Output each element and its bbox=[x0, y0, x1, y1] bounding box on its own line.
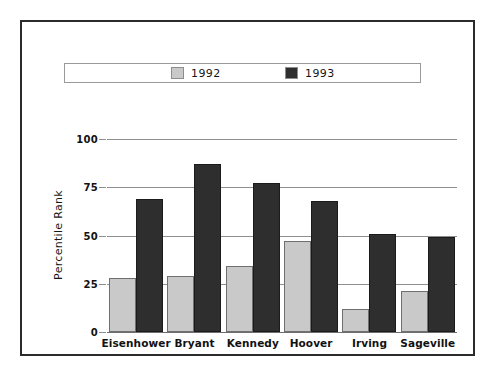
y-tick-mark-50 bbox=[99, 236, 106, 237]
y-tick-mark-100 bbox=[99, 139, 106, 140]
bar-group-bryant: Bryant bbox=[165, 139, 223, 332]
legend-item-1993: 1993 bbox=[285, 67, 335, 79]
bar-irving-1993 bbox=[369, 234, 396, 332]
bar-hoover-1992 bbox=[284, 241, 311, 332]
chart-legend: 1992 1993 bbox=[64, 63, 421, 83]
x-tick-label-sageville: Sageville bbox=[400, 337, 455, 349]
bar-bryant-1992 bbox=[167, 276, 194, 332]
y-tick-mark-0 bbox=[99, 332, 106, 333]
bar-group-hoover: Hoover bbox=[282, 139, 340, 332]
bar-kennedy-1992 bbox=[226, 266, 253, 332]
y-tick-mark-75 bbox=[99, 187, 106, 188]
legend-item-1992: 1992 bbox=[171, 67, 221, 79]
legend-swatch-1993-icon bbox=[285, 67, 298, 79]
x-tick-label-eisenhower: Eisenhower bbox=[102, 337, 171, 349]
bar-sageville-1993 bbox=[428, 237, 455, 332]
bar-kennedy-1993 bbox=[253, 183, 280, 332]
y-tick-label-25: 25 bbox=[83, 278, 98, 289]
bar-bryant-1993 bbox=[194, 164, 221, 332]
gridline-0: 0 bbox=[107, 332, 457, 333]
legend-label-1993: 1993 bbox=[305, 68, 335, 79]
chart-frame: 1992 1993 Percentile Rank 0255075100 Eis… bbox=[20, 20, 475, 356]
y-axis-title: Percentile Rank bbox=[52, 190, 65, 280]
x-tick-label-bryant: Bryant bbox=[174, 337, 214, 349]
bar-group-kennedy: Kennedy bbox=[224, 139, 282, 332]
y-tick-label-75: 75 bbox=[83, 182, 98, 193]
bar-group-sageville: Sageville bbox=[399, 139, 457, 332]
y-tick-label-0: 0 bbox=[91, 327, 98, 338]
bar-group-eisenhower: Eisenhower bbox=[107, 139, 165, 332]
bar-group-irving: Irving bbox=[340, 139, 398, 332]
legend-swatch-1992-icon bbox=[171, 67, 184, 79]
bar-eisenhower-1992 bbox=[109, 278, 136, 332]
y-tick-label-100: 100 bbox=[76, 134, 98, 145]
bar-irving-1992 bbox=[342, 309, 369, 332]
bar-eisenhower-1993 bbox=[136, 199, 163, 332]
bar-hoover-1993 bbox=[311, 201, 338, 332]
y-tick-mark-25 bbox=[99, 284, 106, 285]
legend-label-1992: 1992 bbox=[191, 68, 221, 79]
y-tick-label-50: 50 bbox=[83, 230, 98, 241]
bar-groups: EisenhowerBryantKennedyHooverIrvingSagev… bbox=[107, 139, 457, 332]
bar-sageville-1992 bbox=[401, 291, 428, 332]
plot-area: 0255075100 EisenhowerBryantKennedyHoover… bbox=[107, 139, 457, 332]
x-tick-label-irving: Irving bbox=[352, 337, 387, 349]
x-tick-label-hoover: Hoover bbox=[290, 337, 333, 349]
x-tick-label-kennedy: Kennedy bbox=[227, 337, 279, 349]
